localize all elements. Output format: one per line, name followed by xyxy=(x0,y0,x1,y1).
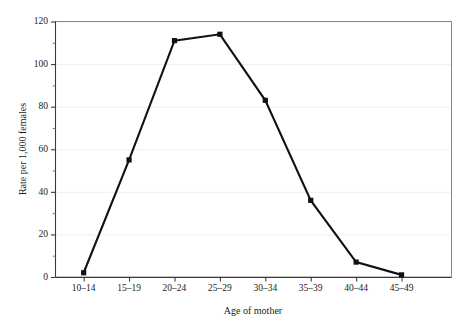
y-tick-label: 0 xyxy=(43,272,48,282)
data-point-marker xyxy=(399,272,404,277)
y-tick-label: 60 xyxy=(39,144,49,154)
chart-container: 020406080100120 10–1415–1920–2425–2930–3… xyxy=(0,0,476,322)
x-tick-label: 35–39 xyxy=(299,283,323,293)
x-tick-label: 45–49 xyxy=(390,283,414,293)
chart-background xyxy=(0,0,476,322)
line-chart: 020406080100120 10–1415–1920–2425–2930–3… xyxy=(0,0,476,322)
y-tick-label: 20 xyxy=(39,229,49,239)
data-point-marker xyxy=(126,157,131,162)
data-point-marker xyxy=(81,270,86,275)
data-point-marker xyxy=(172,38,177,43)
y-tick-label: 100 xyxy=(34,59,49,69)
y-tick-label: 40 xyxy=(39,187,49,197)
y-tick-label: 80 xyxy=(39,101,49,111)
y-axis-title: Rate per 1,000 females xyxy=(17,103,28,195)
x-tick-label: 40–44 xyxy=(344,283,368,293)
x-tick-label: 10–14 xyxy=(72,283,96,293)
x-axis-title: Age of mother xyxy=(224,305,283,316)
x-tick-label: 15–19 xyxy=(117,283,141,293)
x-tick-label: 25–29 xyxy=(208,283,232,293)
y-tick-label: 120 xyxy=(34,16,49,26)
data-point-marker xyxy=(263,98,268,103)
x-tick-label: 30–34 xyxy=(253,283,277,293)
x-tick-label: 20–24 xyxy=(163,283,187,293)
data-point-marker xyxy=(217,32,222,37)
data-point-marker xyxy=(308,198,313,203)
data-point-marker xyxy=(354,260,359,265)
